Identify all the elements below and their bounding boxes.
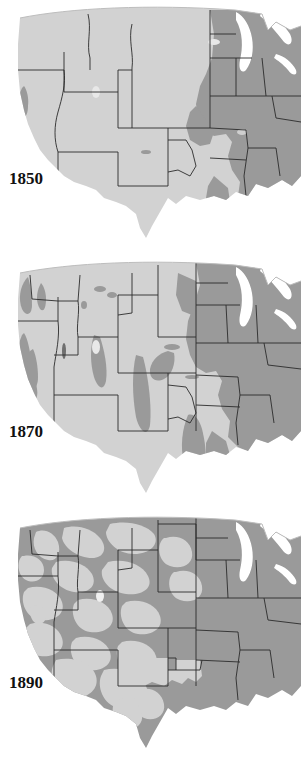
map-1890-landmass [0, 510, 301, 765]
settled-speck-montana-b [107, 292, 117, 298]
map-1850-landmass [0, 0, 301, 255]
great-salt-lake [92, 340, 100, 354]
settled-speck-nebraska-platte [164, 344, 180, 350]
year-label-1870: 1870 [9, 423, 43, 440]
map-panel-1870: 1870 [0, 255, 301, 510]
settled-speck-kansas-river [185, 375, 199, 379]
map-1870-landmass [0, 255, 301, 510]
year-label-1890: 1890 [9, 674, 43, 691]
map-1890-svg [0, 510, 301, 765]
settled-speck-montana-a [94, 286, 106, 292]
map-panel-1850: 1850 [0, 0, 301, 255]
settled-speck-new-mexico [141, 150, 151, 154]
settled-speck-idaho [81, 301, 87, 309]
map-series-figure: 1850 [0, 0, 301, 767]
settled-speck-nevada-comstock [62, 343, 66, 359]
map-panel-1890: 1890 [0, 510, 301, 765]
map-1870-svg [0, 255, 301, 510]
map-1850-svg [0, 0, 301, 255]
year-label-1850: 1850 [9, 170, 43, 187]
